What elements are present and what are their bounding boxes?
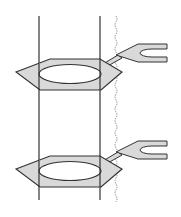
upper-fork-connector [116, 44, 167, 62]
diagram-canvas [0, 0, 181, 217]
upper-ring-hole [39, 65, 101, 84]
lower-ring-hole [39, 162, 101, 181]
lower-fork-connector [116, 141, 167, 159]
